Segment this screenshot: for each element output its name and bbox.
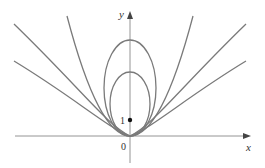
- conic-family-diagram: 1 0 x y: [0, 0, 265, 168]
- y-axis-arrow-icon: [127, 11, 133, 19]
- x-axis-label: x: [245, 141, 251, 153]
- origin-label: 0: [121, 141, 126, 152]
- focus-label: 1: [120, 115, 125, 126]
- x-axis-arrow-icon: [243, 133, 251, 139]
- y-axis-label: y: [118, 8, 124, 20]
- focus-point: [128, 118, 132, 122]
